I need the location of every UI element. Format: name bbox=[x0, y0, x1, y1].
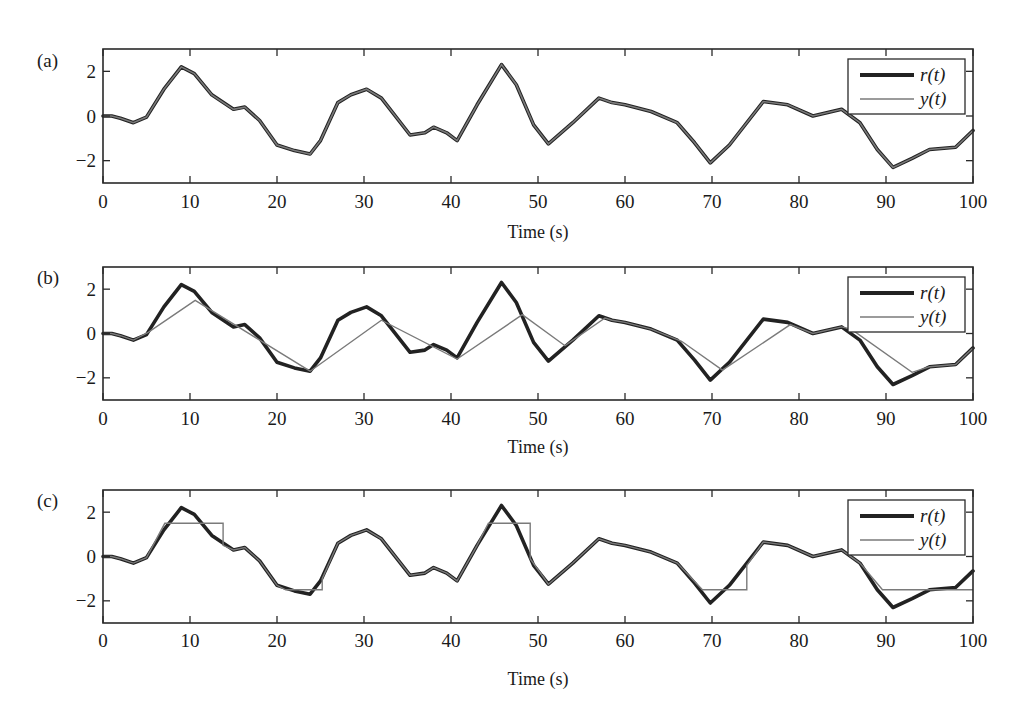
x-tick-label: 100 bbox=[959, 408, 988, 429]
x-tick-label: 40 bbox=[442, 191, 461, 212]
legend-r-label: r(t) bbox=[920, 505, 945, 527]
x-tick-label: 40 bbox=[442, 630, 461, 651]
legend-y-label: y(t) bbox=[918, 306, 946, 328]
x-tick-label: 50 bbox=[529, 408, 548, 429]
x-axis-title: Time (s) bbox=[508, 222, 569, 243]
x-tick-label: 70 bbox=[703, 191, 722, 212]
x-tick-label: 50 bbox=[529, 630, 548, 651]
y-tick-label: −2 bbox=[76, 150, 96, 171]
x-axis-title: Time (s) bbox=[508, 669, 569, 690]
series-y-line bbox=[103, 65, 973, 168]
x-tick-label: 0 bbox=[98, 408, 108, 429]
legend-r-label: r(t) bbox=[920, 282, 945, 304]
legend-r-label: r(t) bbox=[920, 64, 945, 86]
x-tick-label: 90 bbox=[877, 630, 896, 651]
x-tick-label: 20 bbox=[268, 191, 287, 212]
y-tick-label: 2 bbox=[87, 502, 97, 523]
legend-y-label: y(t) bbox=[918, 88, 946, 110]
x-tick-label: 60 bbox=[616, 630, 635, 651]
x-tick-label: 50 bbox=[529, 191, 548, 212]
x-tick-label: 10 bbox=[181, 630, 200, 651]
y-tick-label: 2 bbox=[87, 279, 97, 300]
x-tick-label: 30 bbox=[355, 408, 374, 429]
y-tick-label: 0 bbox=[87, 106, 97, 127]
x-tick-label: 80 bbox=[790, 191, 809, 212]
series-r-line bbox=[103, 506, 973, 608]
series-y-line bbox=[103, 300, 973, 372]
panel-a: 010203040506070809010020−2Time (s)r(t)y(… bbox=[76, 49, 987, 243]
figure: 010203040506070809010020−2Time (s)r(t)y(… bbox=[0, 0, 1021, 716]
series-r-line bbox=[103, 283, 973, 385]
legend-box bbox=[848, 277, 965, 332]
x-tick-label: 70 bbox=[703, 630, 722, 651]
series-y-line bbox=[103, 523, 973, 590]
axes-frame bbox=[103, 49, 973, 183]
x-tick-label: 90 bbox=[877, 408, 896, 429]
y-tick-label: 2 bbox=[87, 61, 97, 82]
x-tick-label: 30 bbox=[355, 191, 374, 212]
panel-b: 010203040506070809010020−2Time (s)r(t)y(… bbox=[76, 267, 987, 458]
y-tick-label: 0 bbox=[87, 546, 97, 567]
x-tick-label: 30 bbox=[355, 630, 374, 651]
panel-c: 010203040506070809010020−2Time (s)r(t)y(… bbox=[76, 490, 987, 690]
x-tick-label: 0 bbox=[98, 630, 108, 651]
axes-frame bbox=[103, 490, 973, 623]
y-tick-label: −2 bbox=[76, 590, 96, 611]
legend-y-label: y(t) bbox=[918, 529, 946, 551]
series-r-line bbox=[103, 65, 973, 168]
x-tick-label: 80 bbox=[790, 630, 809, 651]
x-tick-label: 20 bbox=[268, 630, 287, 651]
legend: r(t)y(t) bbox=[848, 59, 965, 114]
x-tick-label: 10 bbox=[181, 191, 200, 212]
legend-box bbox=[848, 59, 965, 114]
x-tick-label: 0 bbox=[98, 191, 108, 212]
x-tick-label: 40 bbox=[442, 408, 461, 429]
x-tick-label: 90 bbox=[877, 191, 896, 212]
x-tick-label: 60 bbox=[616, 408, 635, 429]
x-tick-label: 80 bbox=[790, 408, 809, 429]
x-tick-label: 20 bbox=[268, 408, 287, 429]
x-tick-label: 10 bbox=[181, 408, 200, 429]
x-tick-label: 100 bbox=[959, 630, 988, 651]
y-tick-label: −2 bbox=[76, 367, 96, 388]
legend-box bbox=[848, 500, 965, 555]
axes-frame bbox=[103, 267, 973, 400]
x-axis-title: Time (s) bbox=[508, 437, 569, 458]
x-tick-label: 100 bbox=[959, 191, 988, 212]
x-tick-label: 60 bbox=[616, 191, 635, 212]
x-tick-label: 70 bbox=[703, 408, 722, 429]
legend: r(t)y(t) bbox=[848, 277, 965, 332]
legend: r(t)y(t) bbox=[848, 500, 965, 555]
y-tick-label: 0 bbox=[87, 323, 97, 344]
